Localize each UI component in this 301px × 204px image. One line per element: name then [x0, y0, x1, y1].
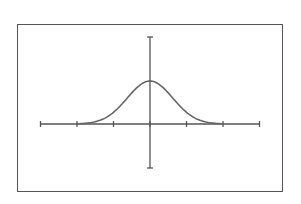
chart-plot	[0, 0, 301, 204]
chart-axes	[40, 37, 260, 168]
